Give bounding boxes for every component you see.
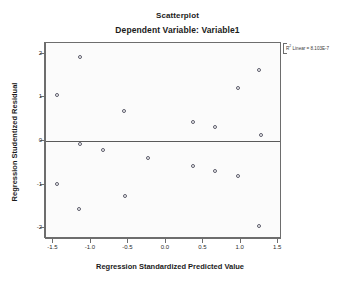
- data-point: [55, 182, 59, 186]
- data-point: [122, 109, 126, 113]
- x-axis-tick-label: 0.0: [161, 244, 169, 250]
- y-axis-title: Regression Studentized Residual: [10, 83, 19, 202]
- x-axis-tick: [165, 239, 166, 243]
- r-squared-annotation: R2 Linear = 8.103E-7: [286, 45, 329, 51]
- x-axis-tick-label: -1.5: [47, 244, 57, 250]
- x-axis-tick: [90, 239, 91, 243]
- y-axis-tick-label: 1: [39, 93, 42, 99]
- x-axis-tick: [277, 239, 278, 243]
- y-axis-tick-label: -1: [37, 181, 42, 187]
- x-axis: -1.5-1.0-0.50.00.51.01.5: [45, 238, 281, 239]
- r-squared-value: Linear = 8.103E-7: [291, 46, 329, 51]
- chart-title: Scatterplot: [0, 11, 355, 20]
- data-point: [236, 174, 240, 178]
- scatterplot-figure: Scatterplot Dependent Variable: Variable…: [0, 0, 355, 288]
- x-axis-tick: [127, 239, 128, 243]
- data-point: [123, 194, 127, 198]
- y-axis: 210-1-2: [44, 42, 45, 238]
- x-axis-tick-label: 1.0: [236, 244, 244, 250]
- data-point: [77, 207, 81, 211]
- data-point: [259, 133, 263, 137]
- chart-subtitle: Dependent Variable: Variable1: [0, 25, 355, 35]
- x-axis-tick-label: -1.0: [85, 244, 95, 250]
- data-point: [191, 120, 195, 124]
- x-axis-tick: [52, 239, 53, 243]
- x-axis-tick: [202, 239, 203, 243]
- x-axis-tick-label: 1.5: [273, 244, 281, 250]
- x-axis-tick-label: -0.5: [122, 244, 132, 250]
- y-axis-tick-label: 0: [39, 137, 42, 143]
- data-point: [257, 68, 261, 72]
- data-point: [55, 93, 59, 97]
- data-point: [236, 86, 240, 90]
- plot-area: [45, 42, 281, 238]
- y-axis-tick-label: -2: [37, 224, 42, 230]
- x-axis-tick: [240, 239, 241, 243]
- x-axis-title: Regression Standardized Predicted Value: [0, 262, 340, 271]
- y-axis-tick-label: 2: [39, 50, 42, 56]
- data-point: [213, 169, 217, 173]
- data-point: [78, 55, 82, 59]
- data-point: [213, 125, 217, 129]
- data-point: [191, 164, 195, 168]
- data-point: [101, 148, 105, 152]
- x-axis-tick-label: 0.5: [198, 244, 206, 250]
- data-point: [146, 156, 150, 160]
- data-point: [257, 224, 261, 228]
- data-point: [78, 142, 82, 146]
